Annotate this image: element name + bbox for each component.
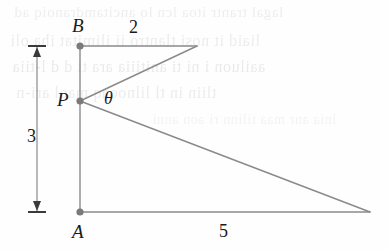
measure-label-top: 2 [129,18,138,36]
angle-label-theta: θ [104,89,113,107]
geometry-figure: lagal trantr itoa lcn lo ancitamdranoiq … [0,0,388,251]
vertex-label-A: A [72,222,84,241]
dimension-arrowhead [33,47,41,57]
dimension-arrowhead [33,201,41,211]
vertex-dot-A [76,208,83,215]
vertex-label-P: P [57,90,69,109]
segment-PD [80,101,370,212]
diagram-svg [0,0,388,251]
vertex-label-B: B [72,16,84,35]
segments-group [80,46,370,212]
vertex-dot-B [76,42,83,49]
vertex-dot-P [76,97,83,104]
measure-label-height: 3 [27,127,36,145]
measure-label-bottom: 5 [219,222,228,240]
segment-PC [80,46,197,101]
